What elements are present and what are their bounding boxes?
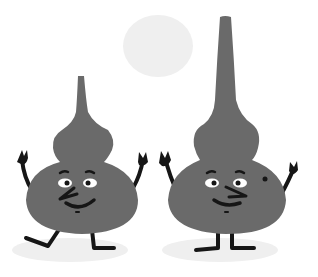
character-short-gourd: [17, 76, 148, 248]
pupil-left: [212, 181, 217, 186]
illustration-canvas: [0, 0, 318, 277]
peace-hand-left: [159, 151, 171, 166]
peace-hand-right: [138, 152, 148, 166]
pupil-right: [86, 181, 91, 186]
peace-hand-right: [289, 161, 298, 174]
pupil-left: [65, 181, 70, 186]
beauty-mark: [263, 177, 268, 182]
sun-circle: [123, 15, 193, 77]
gourd-body-left: [26, 76, 138, 234]
pupil-right: [236, 181, 241, 186]
peace-hand-left: [17, 150, 28, 164]
